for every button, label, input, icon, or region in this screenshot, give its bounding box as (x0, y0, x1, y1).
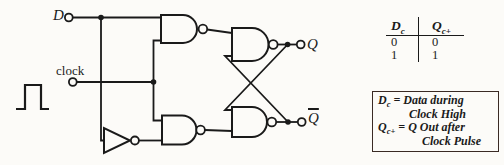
note-qc-base: Q (378, 120, 387, 134)
note-line-4: Clock Pulse (422, 135, 495, 149)
note-line-2: Clock High (409, 108, 495, 122)
note-line-3: Qc+= Q Out after (378, 121, 495, 135)
truth-table: Dc Qc+ 0 0 1 1 (386, 17, 464, 62)
header-dc-sub: c (401, 26, 405, 36)
table-row: 1 1 (386, 49, 464, 62)
gate4-bubble (267, 118, 276, 127)
header-qc-sub: c+ (442, 26, 451, 36)
header-dc-base: D (391, 18, 401, 33)
gate2-bubble (196, 126, 205, 135)
d-terminal (65, 14, 73, 22)
truth-table-cell: 1 (419, 49, 464, 62)
note-dc-sub: c (387, 99, 391, 109)
d-latch-figure: D clock Q Q Dc Qc+ 0 0 1 1 Dc= Data duri… (0, 0, 504, 165)
inverter-bubble (131, 137, 139, 145)
clock-junction-dot (151, 79, 157, 85)
d-to-inverter-wire (101, 18, 104, 141)
truth-table-cell: 1 (386, 49, 419, 62)
d-input-label: D (53, 8, 64, 23)
definition-note-box: Dc= Data during Clock High Qc+= Q Out af… (372, 91, 499, 152)
q-output-label: Q (307, 37, 318, 52)
qbar-output-label: Q (308, 111, 319, 126)
gate1-output-wire (207, 30, 232, 34)
note-line-1: Dc= Data during (378, 94, 495, 108)
table-row: 0 0 (386, 36, 464, 49)
clock-input-label: clock (56, 64, 84, 77)
nand-gate-2 (162, 116, 197, 145)
nand-gate-1 (161, 15, 197, 43)
truth-table-header-dc: Dc (386, 17, 419, 35)
clock-pulse-symbol (16, 85, 49, 109)
truth-table-header-qc: Qc+ (419, 17, 464, 35)
d-junction-dot (98, 15, 104, 21)
header-qc-base: Q (432, 18, 442, 33)
note-line-1-text: = Data during (393, 93, 463, 107)
gate1-bubble (199, 25, 208, 34)
qbar-junction-dot (285, 119, 291, 125)
not-gate (104, 128, 130, 153)
q-terminal (297, 41, 305, 49)
gate3-bubble (269, 40, 278, 49)
truth-table-cell: 0 (419, 36, 464, 49)
note-qc-sub: c+ (387, 127, 396, 137)
nand-gate-4 (232, 107, 267, 137)
truth-table-header-row: Dc Qc+ (386, 17, 464, 36)
gate2-output-wire (205, 130, 232, 131)
nand-gate-3 (232, 28, 269, 61)
note-dc-base: D (378, 93, 387, 107)
clock-terminal (69, 78, 77, 86)
qbar-terminal (298, 118, 306, 126)
q-junction-dot (285, 42, 291, 48)
note-line-3-text: = Q Out after (398, 120, 465, 134)
